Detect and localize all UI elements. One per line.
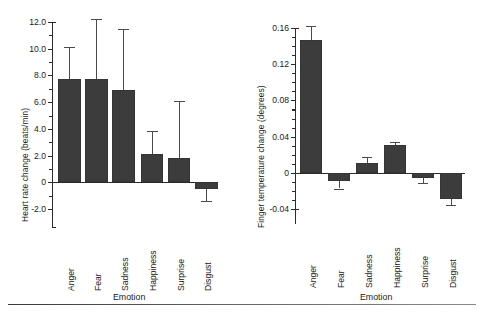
y-axis-title-heart-rate: Heart rate change (beats/min) (20, 108, 30, 222)
bar-happiness (141, 154, 163, 182)
errorcap-surprise (418, 183, 428, 184)
ytick-label-016: 0.16 (272, 23, 289, 33)
ytick-minor (49, 62, 52, 63)
xtick-label-anger: Anger (66, 268, 76, 291)
y-axis-bottom-cap (52, 227, 56, 228)
errorbar-surprise (179, 101, 180, 159)
errorcap-sadness (118, 29, 129, 30)
errorcap-fear (91, 19, 102, 20)
errorcap-disgust (446, 205, 456, 206)
xtick-label-happiness: Happiness (392, 247, 402, 288)
ytick-minor (292, 73, 295, 74)
panel-finger-temperature: Finger temperature change (degrees) 0.16… (242, 0, 484, 315)
ytick-major-6 (48, 102, 52, 103)
xtick-label-disgust: Disgust (448, 259, 458, 288)
errorcap-happiness (390, 142, 400, 143)
errorcap-surprise (174, 101, 185, 102)
panel-heart-rate: Heart rate change (beats/min) 12.0 10.0 … (0, 0, 242, 315)
y-axis-line-heart-rate (52, 22, 53, 228)
bar-disgust (195, 182, 218, 189)
xtick-label-fear: Fear (93, 273, 103, 291)
ytick-minor (49, 89, 52, 90)
plot-area-finger-temperature: 0.16 0.12 0.08 0.04 0 -0. (295, 28, 465, 224)
errorbar-sadness (123, 29, 124, 90)
figure-two-panel-bar-charts: Heart rate change (beats/min) 12.0 10.0 … (0, 0, 484, 315)
ytick-major-008 (291, 100, 295, 101)
x-axis-title-heart-rate: Emotion (113, 292, 145, 302)
bar-happiness (384, 145, 406, 173)
errorcap-happiness (147, 131, 158, 132)
xtick-label-surprise: Surprise (176, 259, 186, 291)
bar-sadness (112, 90, 135, 182)
y-axis-title-finger-temperature: Finger temperature change (degrees) (256, 85, 266, 228)
y-axis-top-cap (52, 22, 56, 23)
y-axis-line-finger-temperature (295, 28, 296, 224)
ytick-major-4 (48, 129, 52, 130)
errorbar-anger (69, 47, 70, 79)
ytick-minor (49, 116, 52, 117)
plot-area-heart-rate: 12.0 10.0 8.0 6.0 4.0 2.0 0 -2.0 (52, 22, 215, 228)
zero-baseline-heart-rate (52, 182, 215, 183)
ytick-minor (292, 155, 295, 156)
ytick-major-2 (48, 156, 52, 157)
ytick-minor (292, 46, 295, 47)
ytick-minor (292, 37, 295, 38)
errorcap-fear (334, 189, 344, 190)
bar-surprise (168, 158, 190, 182)
ytick-label-8: 8.0 (34, 70, 46, 80)
ytick-major-012 (291, 64, 295, 65)
bar-anger (58, 79, 81, 182)
ytick-label-12: 12.0 (29, 17, 46, 27)
xtick-label-fear: Fear (336, 270, 346, 288)
errorbar-fear (339, 181, 340, 189)
errorbar-disgust (206, 189, 207, 201)
y-axis-top-cap (295, 28, 299, 29)
ytick-minor (49, 35, 52, 36)
bar-fear (85, 79, 108, 183)
bar-sadness (356, 163, 378, 173)
ytick-label-0: 0 (41, 177, 46, 187)
x-axis-title-finger-temperature: Emotion (360, 292, 392, 302)
ytick-minor (292, 91, 295, 92)
ytick-minor (292, 128, 295, 129)
ytick-label-2: 2.0 (34, 151, 46, 161)
ytick-label-6: 6.0 (34, 97, 46, 107)
ytick-minor (292, 191, 295, 192)
ytick-label-neg2: -2.0 (31, 204, 46, 214)
errorcap-sadness (362, 157, 372, 158)
ytick-minor (292, 200, 295, 201)
ytick-label-neg004: -0.04 (269, 204, 289, 214)
ytick-label-10: 10.0 (29, 44, 46, 54)
ytick-label-0: 0 (284, 168, 289, 178)
ytick-minor (292, 182, 295, 183)
xtick-label-anger: Anger (308, 265, 318, 288)
ytick-label-008: 0.08 (272, 95, 289, 105)
footer-rule (8, 304, 476, 305)
bar-anger (300, 40, 322, 173)
errorbar-fear (96, 19, 97, 79)
xtick-label-sadness: Sadness (120, 258, 130, 291)
errorcap-anger (306, 26, 316, 27)
xtick-label-happiness: Happiness (148, 250, 158, 291)
xtick-label-surprise: Surprise (420, 256, 430, 288)
errorcap-disgust (201, 201, 212, 202)
ytick-major-016 (291, 28, 295, 29)
xtick-label-disgust: Disgust (203, 262, 213, 291)
y-axis-bottom-cap (295, 209, 299, 210)
ytick-label-012: 0.12 (272, 59, 289, 69)
ytick-major-004 (291, 137, 295, 138)
ytick-minor (292, 55, 295, 56)
ytick-minor (49, 142, 52, 143)
ytick-minor (49, 196, 52, 197)
ytick-minor (49, 169, 52, 170)
bar-disgust (440, 173, 462, 199)
ytick-major-12 (48, 22, 52, 23)
bar-fear (328, 173, 350, 181)
ytick-major-10 (48, 49, 52, 50)
errorbar-anger (311, 26, 312, 40)
xtick-label-sadness: Sadness (364, 255, 374, 288)
ytick-major-neg2 (48, 209, 52, 210)
ytick-major-8 (48, 75, 52, 76)
ytick-minor (292, 109, 295, 110)
ytick-minor (292, 164, 295, 165)
